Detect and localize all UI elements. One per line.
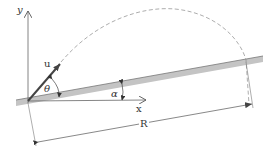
theta-label: θ <box>44 83 50 94</box>
inclined-plane <box>16 56 263 106</box>
range-extension-left <box>28 103 36 146</box>
velocity-label: u <box>44 58 51 69</box>
range-extension-right <box>246 62 253 108</box>
alpha-label: α <box>111 88 118 99</box>
projectile-incline-diagram: y x u θ α R <box>0 0 274 149</box>
range-label: R <box>140 118 148 129</box>
x-axis-label: x <box>136 103 142 114</box>
y-axis-label: y <box>16 4 23 15</box>
